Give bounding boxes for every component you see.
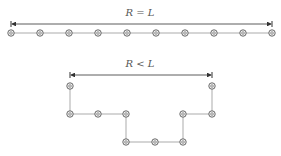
bottom-bead-core [124, 112, 127, 115]
chain-diagram: R = L R < L [0, 0, 281, 156]
top-bead-core [241, 31, 244, 34]
bottom-bead-core [96, 112, 99, 115]
top-bead-core [212, 31, 215, 34]
bottom-bead-core [181, 112, 184, 115]
top-bead-core [183, 31, 186, 34]
bottom-bead-core [68, 84, 71, 87]
bottom-bead-core [153, 140, 156, 143]
top-bead-core [270, 31, 273, 34]
top-bead-core [38, 31, 41, 34]
bottom-bead-core [124, 140, 127, 143]
extended-chain [8, 21, 275, 36]
top-bead-core [154, 31, 157, 34]
top-bead-core [125, 31, 128, 34]
folded-chain [67, 72, 215, 145]
bottom-bead-core [181, 140, 184, 143]
top-bead-core [96, 31, 99, 34]
bottom-bead-core [68, 112, 71, 115]
top-bead-core [67, 31, 70, 34]
top-bead-core [9, 31, 12, 34]
label-r-equals-l: R = L [125, 7, 155, 18]
bottom-bead-core [210, 84, 213, 87]
label-r-less-than-l: R < L [125, 58, 155, 69]
bottom-bead-core [210, 112, 213, 115]
